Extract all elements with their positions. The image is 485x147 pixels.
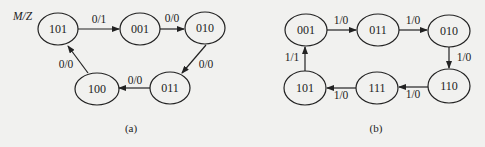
diagram-a: M/Z 101 001 010 011 100 0/1 0/0 0/0 <box>12 10 225 135</box>
legend-mz: M/Z <box>12 10 33 22</box>
svg-text:001: 001 <box>297 23 315 37</box>
svg-text:1/0: 1/0 <box>334 89 349 101</box>
svg-text:010: 010 <box>440 24 458 38</box>
svg-text:1/0: 1/0 <box>334 14 349 26</box>
state-diagrams: M/Z 101 001 010 011 100 0/1 0/0 0/0 <box>0 0 485 147</box>
state-a-010: 010 <box>185 12 225 44</box>
svg-text:111: 111 <box>368 81 385 95</box>
state-b-011: 011 <box>357 14 399 46</box>
svg-text:011: 011 <box>369 23 387 37</box>
svg-text:011: 011 <box>161 81 179 95</box>
svg-text:1/0: 1/0 <box>457 51 472 63</box>
diagram-b: 001 011 010 110 111 101 1/0 1/0 1/0 <box>284 14 472 135</box>
svg-text:0/0: 0/0 <box>128 74 143 86</box>
svg-text:1/1: 1/1 <box>285 51 300 63</box>
state-a-100: 100 <box>75 73 119 105</box>
state-a-101: 101 <box>38 13 78 45</box>
svg-text:0/1: 0/1 <box>92 13 107 25</box>
state-a-011: 011 <box>150 72 190 104</box>
state-b-001: 001 <box>285 14 327 46</box>
svg-text:0/0: 0/0 <box>165 12 180 24</box>
svg-text:0/0: 0/0 <box>199 58 214 70</box>
state-b-010: 010 <box>428 15 470 47</box>
svg-text:100: 100 <box>88 82 106 96</box>
svg-text:1/0: 1/0 <box>406 88 421 100</box>
svg-text:0/0: 0/0 <box>59 58 74 70</box>
svg-text:101: 101 <box>49 22 67 36</box>
svg-text:1/0: 1/0 <box>406 14 421 26</box>
svg-text:101: 101 <box>296 81 314 95</box>
caption-a: (a) <box>125 122 138 135</box>
svg-text:110: 110 <box>440 79 458 93</box>
svg-text:001: 001 <box>131 22 149 36</box>
state-b-101: 101 <box>284 71 326 105</box>
state-b-111: 111 <box>356 72 398 104</box>
state-a-001: 001 <box>120 13 160 45</box>
caption-b: (b) <box>370 122 383 135</box>
state-b-110: 110 <box>428 69 470 103</box>
svg-text:010: 010 <box>196 21 214 35</box>
